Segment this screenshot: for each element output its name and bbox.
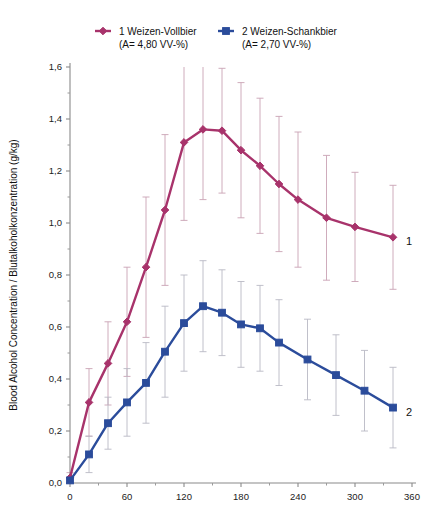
y-tick-label: 1,2	[49, 165, 62, 176]
x-tick-label: 120	[176, 491, 192, 502]
data-point-marker	[162, 348, 169, 355]
data-point-marker	[105, 420, 112, 427]
data-point-marker	[123, 318, 131, 326]
data-point-marker	[85, 399, 93, 407]
data-point-marker	[390, 404, 397, 411]
data-point-marker	[181, 320, 188, 327]
data-point-marker	[223, 28, 230, 35]
data-point-marker	[86, 451, 93, 458]
data-point-marker	[304, 356, 311, 363]
x-tick-label: 240	[290, 491, 306, 502]
data-point-marker	[351, 223, 359, 231]
series-1	[66, 126, 397, 482]
series-line	[70, 129, 393, 477]
data-point-marker	[104, 360, 112, 368]
x-tick-label: 180	[233, 491, 249, 502]
legend-entry-2: 2 Weizen-Schankbier(A= 2,70 VV-%)	[218, 26, 338, 50]
error-bars-layer	[67, 67, 397, 483]
x-tick-label: 0	[67, 491, 72, 502]
data-point-marker	[200, 303, 207, 310]
series-line	[70, 306, 393, 480]
data-point-marker	[361, 387, 368, 394]
y-tick-label: 1,0	[49, 217, 62, 228]
data-point-marker	[161, 206, 169, 214]
y-tick-label: 0,6	[49, 321, 62, 332]
legend-label: 1 Weizen-Vollbier	[119, 26, 197, 37]
legend-sublabel: (A= 2,70 VV-%)	[242, 39, 311, 50]
y-tick-label: 0,2	[49, 425, 62, 436]
chart-container: 1 Weizen-Vollbier(A= 4,80 VV-%)2 Weizen-…	[0, 0, 438, 527]
y-tick-label: 1,4	[49, 113, 62, 124]
data-series-layer	[66, 126, 397, 484]
data-point-marker	[124, 399, 131, 406]
x-tick-label: 360	[404, 491, 420, 502]
series-2	[67, 303, 397, 484]
data-point-marker	[238, 321, 245, 328]
data-point-marker	[257, 325, 264, 332]
chart-legend: 1 Weizen-Vollbier(A= 4,80 VV-%)2 Weizen-…	[95, 26, 338, 50]
data-point-marker	[143, 380, 150, 387]
data-point-marker	[333, 372, 340, 379]
legend-entry-1: 1 Weizen-Vollbier(A= 4,80 VV-%)	[95, 26, 197, 50]
data-point-marker	[99, 27, 107, 35]
x-tick-label: 300	[347, 491, 363, 502]
y-axis-title: Blood Alcohol Concentration / Blutalkoho…	[8, 139, 19, 410]
legend-label: 2 Weizen-Schankbier	[242, 26, 338, 37]
y-tick-label: 0,0	[49, 477, 62, 488]
series-end-label-2: 2	[406, 406, 412, 418]
blood-alcohol-line-chart: 1 Weizen-Vollbier(A= 4,80 VV-%)2 Weizen-…	[0, 0, 438, 527]
y-tick-label: 1,6	[49, 61, 62, 72]
y-tick-label: 0,8	[49, 269, 62, 280]
data-point-marker	[142, 263, 150, 271]
x-tick-label: 60	[122, 491, 133, 502]
legend-sublabel: (A= 4,80 VV-%)	[119, 39, 188, 50]
data-point-marker	[389, 234, 397, 242]
data-point-marker	[67, 477, 74, 484]
data-point-marker	[276, 339, 283, 346]
series-end-label-1: 1	[406, 235, 412, 247]
y-tick-label: 0,4	[49, 373, 62, 384]
data-point-marker	[219, 309, 226, 316]
